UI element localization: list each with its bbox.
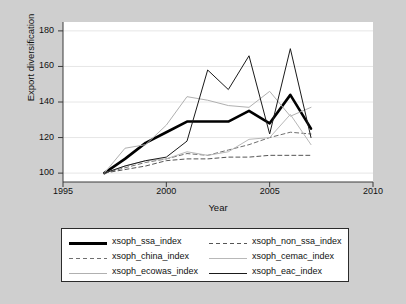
legend-label: xsoph_non_ssa_index	[252, 236, 342, 246]
y-tick-label: 100	[28, 167, 54, 177]
legend-entry[interactable]: xsoph_eac_index	[208, 263, 348, 278]
x-tick-label: 1995	[43, 186, 83, 196]
legend-entry[interactable]: xsoph_ecowas_index	[68, 263, 208, 278]
legend-label: xsoph_cemac_index	[252, 251, 334, 261]
legend-swatch-icon	[208, 268, 248, 279]
x-tick-label: 2000	[146, 186, 186, 196]
legend-entry[interactable]: xsoph_ssa_index	[68, 233, 208, 248]
legend-label: xsoph_ssa_index	[112, 236, 182, 246]
series-line	[104, 155, 311, 173]
legend-line-icon	[208, 250, 248, 261]
x-tick-label: 2005	[250, 186, 290, 196]
legend-swatch-icon	[68, 268, 108, 279]
legend-line-icon	[68, 250, 108, 261]
gridlines	[63, 31, 373, 173]
legend-line-icon	[68, 235, 108, 246]
series-line	[104, 95, 311, 173]
legend-entry[interactable]: xsoph_cemac_index	[208, 248, 348, 263]
legend-swatch-icon	[68, 253, 108, 264]
legend-swatch-icon	[208, 253, 248, 264]
legend-swatch-icon	[208, 238, 248, 249]
legend-column-left: xsoph_ssa_indexxsoph_china_indexxsoph_ec…	[68, 233, 208, 278]
y-tick-label: 120	[28, 132, 54, 142]
legend-label: xsoph_ecowas_index	[112, 266, 198, 276]
chart-figure: 100120140160180 1995200020052010 Export …	[0, 0, 406, 304]
legend-entry[interactable]: xsoph_non_ssa_index	[208, 233, 348, 248]
legend-entry[interactable]: xsoph_china_index	[68, 248, 208, 263]
legend-line-icon	[68, 265, 108, 276]
x-tick-label: 2010	[353, 186, 393, 196]
legend-label: xsoph_eac_index	[252, 266, 322, 276]
legend-line-icon	[208, 265, 248, 276]
series-line	[104, 132, 311, 173]
x-axis-title: Year	[63, 202, 373, 213]
legend-swatch-icon	[68, 238, 108, 249]
legend-label: xsoph_china_index	[112, 251, 189, 261]
chart-legend: xsoph_ssa_indexxsoph_china_indexxsoph_ec…	[61, 228, 349, 282]
legend-column-right: xsoph_non_ssa_indexxsoph_cemac_indexxsop…	[208, 233, 348, 278]
y-axis-title: Export diversification	[25, 0, 36, 128]
plot-area	[63, 22, 373, 182]
legend-line-icon	[208, 235, 248, 246]
series-line	[104, 114, 311, 173]
chart-canvas	[63, 22, 373, 182]
series-line	[104, 91, 311, 173]
series-lines	[104, 49, 311, 173]
